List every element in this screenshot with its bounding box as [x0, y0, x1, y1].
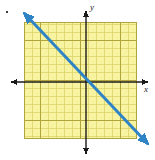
grid-area [24, 22, 136, 138]
graph-canvas [0, 0, 155, 160]
y-axis-label: y [90, 3, 94, 12]
x-axis-label: x [144, 85, 148, 94]
coordinate-plane-figure: y x [0, 0, 155, 160]
